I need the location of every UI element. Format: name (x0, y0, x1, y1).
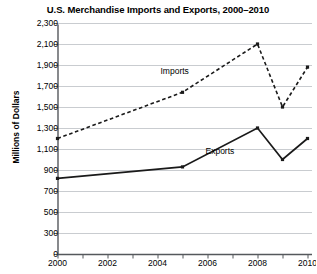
series-label-imports: Imports (161, 66, 189, 76)
x-axis-tick-labels: 200020022004200620082010 (0, 0, 316, 274)
x-axis-tick-label: 2006 (188, 258, 228, 268)
series-label-exports: Exports (206, 146, 235, 156)
x-axis-tick-label: 2004 (138, 258, 178, 268)
x-axis-tick-label: 2000 (38, 258, 78, 268)
x-axis-tick-label: 2010 (288, 258, 317, 268)
chart-container: U.S. Merchandise Imports and Exports, 20… (0, 0, 316, 274)
x-axis-tick-label: 2002 (88, 258, 128, 268)
x-axis-tick-label: 2008 (238, 258, 278, 268)
